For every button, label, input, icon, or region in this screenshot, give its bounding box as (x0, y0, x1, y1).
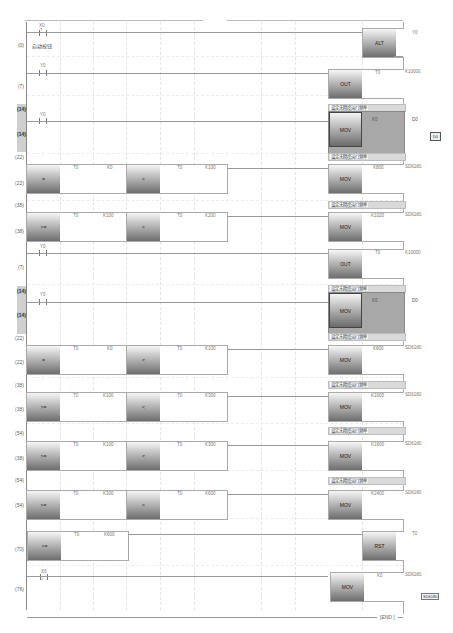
banner-text: 设定无精度运行频率 (330, 286, 368, 291)
operand: Y0 (412, 30, 418, 35)
banner-text: 设定无精度运行频率 (330, 334, 368, 339)
comment-banner: 设定无精度运行频率 (328, 201, 406, 209)
operand: K100 (205, 346, 216, 351)
step-number: (70) (2, 546, 24, 552)
mov-instruction[interactable]: MOV K0 (330, 572, 404, 602)
rung-wire (227, 494, 328, 495)
compare-block[interactable]: = T0 K0 (26, 164, 128, 194)
instruction-name: MOV (331, 573, 364, 601)
end-label: END (381, 614, 392, 620)
compare-operator: < (127, 442, 160, 470)
mov-instruction[interactable]: MOV K800 (328, 345, 404, 375)
rst-instruction[interactable]: RST (362, 531, 404, 561)
mov-instruction[interactable]: MOV (329, 293, 362, 328)
step-number: (22) (2, 154, 24, 160)
operand: SD6180 (405, 345, 421, 350)
out-timer-instruction[interactable]: OUT T0 (328, 249, 404, 279)
operand: K1600 (371, 393, 384, 398)
operand: SD6180 (405, 164, 421, 169)
instruction-name: MOV (329, 393, 362, 421)
step-number: (0) (2, 42, 24, 48)
compare-operator: < (127, 213, 160, 241)
step-number: (14) (17, 288, 26, 294)
banner-text: 设定无精度运行频率 (330, 428, 368, 433)
operand: T0 (177, 442, 182, 447)
compare-operator: >= (27, 213, 60, 241)
mov-instruction[interactable]: MOV K1600 (328, 441, 404, 471)
banner-text: 设定无精度运行频率 (330, 154, 368, 159)
operand: K300 (205, 393, 216, 398)
step-number: (38) (2, 406, 24, 412)
operand: K100 (205, 165, 216, 170)
instruction-name: MOV (329, 165, 362, 193)
mov-instruction[interactable]: MOV K800 (328, 164, 404, 194)
rising-edge-contact[interactable] (39, 30, 47, 36)
mov-instruction[interactable]: MOV K1020 (328, 212, 404, 242)
compare-block[interactable]: < T0 K300 (126, 392, 228, 422)
compare-operator: = (27, 346, 60, 374)
instruction-name: MOV (329, 346, 362, 374)
operand: T0 (177, 491, 182, 496)
grid-line (160, 22, 161, 610)
contact-device: Y0 (40, 292, 46, 297)
step-number: (7) (2, 264, 24, 270)
compare-block[interactable]: >= T0 K100 (26, 441, 128, 471)
operand: T0 (375, 70, 380, 75)
compare-block[interactable]: < T0 K100 (126, 345, 228, 375)
rung-wire (27, 302, 328, 303)
step-number: (22) (2, 359, 24, 365)
grid-line (295, 22, 296, 610)
rung-wire (227, 168, 328, 169)
rung-wire (227, 349, 328, 350)
comment-banner: 设定无精度运行频率 (328, 153, 406, 161)
grid-line (60, 22, 61, 610)
compare-block[interactable]: >= T0 K100 (26, 392, 128, 422)
compare-block[interactable]: >= T0 K300 (26, 490, 128, 520)
operand: K2400 (371, 491, 384, 496)
compare-block[interactable]: < T0 K100 (126, 164, 228, 194)
rung-wire (227, 445, 328, 446)
operand: D0 (412, 298, 418, 303)
mov-instruction[interactable]: MOV (329, 112, 362, 147)
operand: K0 (377, 573, 383, 578)
instruction-name: OUT (329, 250, 362, 278)
operand: T0 (73, 393, 78, 398)
column-ruler (227, 20, 403, 23)
out-timer-instruction[interactable]: OUT T0 (328, 69, 404, 99)
compare-operator: >= (27, 393, 60, 421)
mov-instruction[interactable]: MOV K2400 (328, 490, 404, 520)
device-comment: 启动按钮 (32, 42, 52, 49)
contact-device: Y0 (40, 63, 46, 68)
operand: T0 (73, 442, 78, 447)
operand: K600 (104, 532, 115, 537)
device-tooltip: SD6180 (421, 593, 439, 600)
operand: K100 (103, 393, 114, 398)
operand: K0 (107, 346, 113, 351)
operand: K1600 (371, 442, 384, 447)
instruction-name: ALT (363, 29, 396, 57)
step-number: (22) (2, 180, 24, 186)
comment-banner: 设定无精度运行频率 (328, 427, 406, 435)
compare-block[interactable]: < T0 K200 (126, 212, 228, 242)
comment-banner: 设定无精度运行频率 (328, 333, 406, 341)
compare-block[interactable]: = T0 K0 (26, 345, 128, 375)
compare-block[interactable]: >= T0 K100 (26, 212, 128, 242)
alt-instruction[interactable]: ALT (362, 28, 404, 58)
column-ruler (25, 20, 203, 23)
step-number: (14) (17, 106, 26, 112)
compare-block[interactable]: < T0 K600 (126, 490, 228, 520)
operand: T0 (73, 491, 78, 496)
compare-block[interactable]: >= T0 K600 (27, 531, 129, 561)
device-badge[interactable]: D0 (430, 132, 441, 141)
compare-block[interactable]: < T0 K300 (126, 441, 228, 471)
operand: K600 (205, 491, 216, 496)
step-number: (14) (17, 131, 26, 137)
operand: K800 (373, 346, 384, 351)
banner-text: 设定无精度运行频率 (330, 105, 368, 110)
rung-wire (398, 617, 403, 618)
grid-line (27, 377, 403, 378)
operand: T0 (177, 346, 182, 351)
step-number: (38) (2, 455, 24, 461)
mov-instruction[interactable]: MOV K1600 (328, 392, 404, 422)
instruction-name: MOV (329, 213, 362, 241)
